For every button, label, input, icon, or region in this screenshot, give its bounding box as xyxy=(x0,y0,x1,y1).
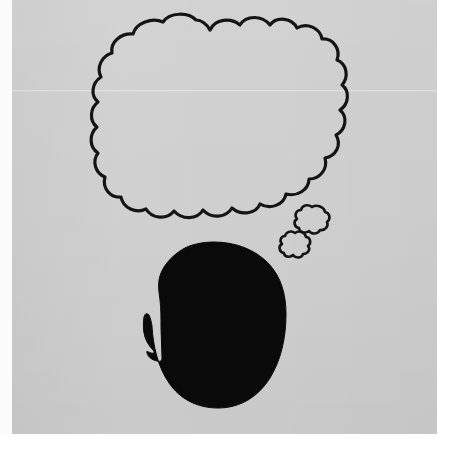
artwork-layer xyxy=(0,0,450,452)
thought-bubble-outline xyxy=(91,14,347,217)
head-silhouette xyxy=(143,242,286,408)
trail-bubble-large xyxy=(295,205,330,233)
head-silhouette-shape xyxy=(143,242,286,408)
trail-bubble-large-outline xyxy=(295,205,330,233)
trail-bubble-small-outline xyxy=(280,232,311,258)
illustration-svg xyxy=(0,0,450,452)
thought-bubble xyxy=(91,14,347,217)
trail-bubble-small xyxy=(280,232,311,258)
image-canvas xyxy=(0,0,450,452)
